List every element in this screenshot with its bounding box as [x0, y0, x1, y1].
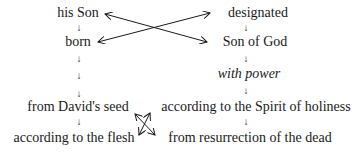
node-son-of-god: Son of God [223, 34, 288, 50]
down-arrow-icon: ↓ [77, 70, 82, 82]
node-designated: designated [228, 5, 288, 21]
node-spirit-holiness: according to the Spirit of holiness [161, 99, 350, 115]
node-his-son: his Son [57, 5, 99, 21]
node-davids-seed: from David's seed [27, 99, 128, 115]
down-arrow-icon: ↓ [77, 116, 82, 128]
down-arrow-icon: ↓ [77, 53, 82, 65]
down-arrow-icon: ↓ [244, 22, 249, 34]
arrow-born-designated [98, 13, 210, 42]
down-arrow-icon: ↓ [244, 53, 249, 65]
down-arrow-icon: ↓ [244, 116, 249, 128]
arrow-seed-resurrection [135, 114, 155, 135]
node-according-flesh: according to the flesh [14, 130, 135, 146]
arrow-flesh-spirit [139, 113, 150, 135]
node-resurrection: from resurrection of the dead [168, 130, 331, 146]
down-arrow-icon: ↓ [77, 22, 82, 34]
down-arrow-icon: ↓ [244, 85, 249, 97]
node-with-power: with power [218, 66, 281, 82]
node-born: born [65, 34, 91, 50]
